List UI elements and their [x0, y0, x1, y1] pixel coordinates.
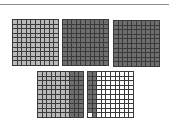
grid-cell — [41, 48, 45, 52]
grid-cell — [70, 109, 74, 113]
grid-cell — [36, 38, 40, 42]
grid-cell — [129, 113, 133, 117]
grid-cell — [137, 26, 141, 30]
grid-cell — [45, 34, 49, 38]
grid-cell — [22, 25, 26, 29]
grid-cell — [72, 43, 76, 47]
grid-cell — [38, 81, 42, 85]
grid-cell — [47, 86, 51, 90]
grid-cell — [93, 100, 97, 104]
grid-cell — [41, 38, 45, 42]
grid-cell — [68, 48, 72, 52]
grid-cell — [36, 34, 40, 38]
grid-cell — [95, 29, 99, 33]
grid-cell — [13, 34, 17, 38]
grid-cell — [120, 104, 124, 108]
grid-cell — [95, 61, 99, 65]
grid-cell — [41, 29, 45, 33]
grid-cell — [38, 113, 42, 117]
grid-cell — [77, 20, 81, 24]
grid-cell — [132, 35, 136, 39]
grid-cell — [91, 38, 95, 42]
grid-cell — [77, 48, 81, 52]
grid-cell — [41, 25, 45, 29]
grid-cell — [142, 21, 146, 25]
grid-cell — [102, 86, 106, 90]
grid-cell — [100, 61, 104, 65]
grid-cell — [47, 90, 51, 94]
hundred-grid-4 — [37, 71, 84, 118]
grid-cell — [93, 95, 97, 99]
grid-cell — [72, 48, 76, 52]
grid-cell — [75, 100, 79, 104]
grid-cell — [45, 25, 49, 29]
grid-cell — [52, 72, 56, 76]
grid-cell — [104, 25, 108, 29]
grid-cell — [79, 90, 83, 94]
grid-cell — [100, 57, 104, 61]
grid-cell — [63, 43, 67, 47]
grid-cell — [47, 104, 51, 108]
grid-cell — [79, 113, 83, 117]
grid-cell — [137, 44, 141, 48]
grid-cell — [102, 109, 106, 113]
grid-cell — [61, 104, 65, 108]
grid-cell — [97, 86, 101, 90]
grid-cell — [151, 58, 155, 62]
grid-cell — [50, 29, 54, 33]
grid-cell — [27, 20, 31, 24]
grid-cell — [66, 113, 70, 117]
grid-cell — [111, 113, 115, 117]
grid-cell — [66, 95, 70, 99]
grid-cell — [43, 72, 47, 76]
grid-cell — [86, 34, 90, 38]
grid-cell — [128, 49, 132, 53]
grid-cell — [36, 48, 40, 52]
grid-cell — [68, 29, 72, 33]
grid-cell — [72, 38, 76, 42]
grid-cell — [45, 20, 49, 24]
grid-cell — [77, 43, 81, 47]
grid-cell — [81, 52, 85, 56]
grid-cell — [95, 48, 99, 52]
grid-cell — [31, 25, 35, 29]
grid-cell — [129, 90, 133, 94]
grid-cell — [75, 81, 79, 85]
grid-cell — [132, 53, 136, 57]
grid-cell — [102, 81, 106, 85]
grid-cell — [18, 29, 22, 33]
grid-cell — [97, 90, 101, 94]
grid-cell — [50, 20, 54, 24]
grid-cell — [95, 20, 99, 24]
grid-cell — [97, 95, 101, 99]
grid-cell — [106, 113, 110, 117]
grid-cell — [54, 48, 58, 52]
grid-cell — [119, 58, 123, 62]
grid-cell — [111, 81, 115, 85]
grid-cell — [155, 62, 159, 66]
grid-cell — [116, 104, 120, 108]
grid-cell — [137, 53, 141, 57]
grid-cell — [13, 29, 17, 33]
grid-cell — [104, 57, 108, 61]
hundred-grid-1 — [12, 19, 59, 66]
grid-cell — [81, 25, 85, 29]
grid-cell — [68, 52, 72, 56]
grid-cell — [88, 100, 92, 104]
grid-cell — [45, 61, 49, 65]
grid-cell — [119, 30, 123, 34]
grid-cell — [68, 57, 72, 61]
grid-cell — [129, 109, 133, 113]
grid-cell — [70, 104, 74, 108]
grid-cell — [111, 72, 115, 76]
grid-cell — [50, 25, 54, 29]
grid-cell — [22, 52, 26, 56]
grid-cell — [66, 81, 70, 85]
grid-cell — [155, 58, 159, 62]
grid-cell — [47, 72, 51, 76]
grid-cell — [125, 113, 129, 117]
grid-cell — [79, 95, 83, 99]
grid-cell — [102, 77, 106, 81]
grid-cell — [66, 90, 70, 94]
grid-cell — [50, 61, 54, 65]
